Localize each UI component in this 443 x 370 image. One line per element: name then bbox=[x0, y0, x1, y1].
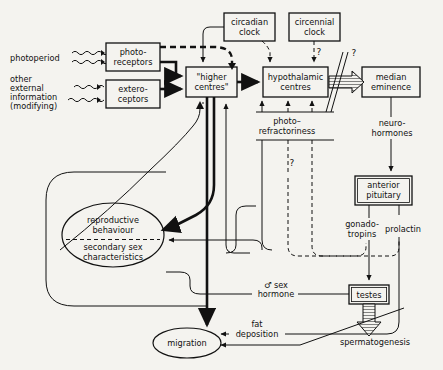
svg-text:eminence: eminence bbox=[371, 82, 411, 92]
svg-text:ceptors: ceptors bbox=[118, 94, 149, 104]
svg-text:tropins: tropins bbox=[348, 229, 376, 239]
edge-dashed-feedback-gonado bbox=[298, 243, 366, 256]
node-median-eminence: median eminence bbox=[362, 67, 420, 97]
node-reproductive-behaviour: reproductive behaviour secondary sex cha… bbox=[62, 203, 164, 267]
svg-text:photo-: photo- bbox=[120, 47, 147, 57]
node-testes: testes bbox=[349, 285, 389, 304]
svg-text:reproductive: reproductive bbox=[87, 215, 139, 225]
question-mark-refractoriness: ? bbox=[290, 158, 295, 168]
label-sex-hormone: ♂ sex hormone bbox=[252, 280, 298, 300]
edge-lower-to-higher-join bbox=[226, 245, 250, 253]
svg-text:neuro-: neuro- bbox=[379, 118, 406, 128]
question-mark-median: ? bbox=[352, 48, 357, 58]
question-mark-circennial: ? bbox=[317, 47, 322, 57]
svg-text:refractoriness: refractoriness bbox=[259, 126, 316, 136]
edge-circadian-to-hypothalamic bbox=[262, 41, 270, 62]
svg-text:receptors: receptors bbox=[114, 57, 153, 67]
edge-refractoriness-down-dash-a bbox=[288, 178, 298, 256]
svg-text:hypothalamic: hypothalamic bbox=[268, 72, 324, 82]
label-neurohormones: neuro- hormones bbox=[368, 117, 416, 139]
label-photoperiod: photoperiod bbox=[10, 53, 60, 63]
svg-text:"higher: "higher bbox=[196, 72, 227, 82]
loop-right-small bbox=[226, 206, 256, 253]
svg-text:deposition: deposition bbox=[236, 329, 279, 339]
label-prolactin: prolactin bbox=[385, 224, 421, 234]
svg-text:fat: fat bbox=[251, 319, 263, 329]
edge-refractoriness-down-solid bbox=[262, 140, 272, 250]
svg-text:hormones: hormones bbox=[372, 128, 413, 138]
node-migration: migration bbox=[153, 328, 221, 358]
svg-text:clock: clock bbox=[304, 27, 325, 37]
svg-text:circennial: circennial bbox=[295, 17, 334, 27]
svg-text:characteristics: characteristics bbox=[83, 252, 143, 262]
svg-text:migration: migration bbox=[167, 338, 207, 348]
photoperiod-input bbox=[72, 50, 108, 65]
edge-hormone-to-reproductive-elbow bbox=[253, 240, 262, 250]
edge-sexhormone-curve bbox=[166, 272, 200, 294]
svg-text:photo–: photo– bbox=[273, 116, 301, 126]
node-hypothalamic-centres: hypothalamic centres bbox=[263, 67, 328, 97]
edge-photoreceptors-to-higher bbox=[160, 62, 181, 76]
svg-text:(modifying): (modifying) bbox=[10, 101, 57, 111]
node-anterior-pituitary: anterior pituitary bbox=[355, 176, 412, 205]
svg-text:median: median bbox=[376, 72, 407, 82]
flow-diagram: photoperiod other external information (… bbox=[0, 0, 443, 370]
edge-dashed-feedback-prolactin bbox=[322, 240, 399, 256]
node-higher-centres: "higher centres" bbox=[186, 67, 237, 97]
node-circennial-clock: circennial clock bbox=[289, 13, 340, 41]
svg-text:pituitary: pituitary bbox=[366, 190, 401, 200]
svg-text:circadian: circadian bbox=[231, 17, 268, 27]
svg-text:clock: clock bbox=[239, 27, 260, 37]
svg-text:gonado-: gonado- bbox=[345, 219, 379, 229]
svg-text:hormone: hormone bbox=[258, 289, 295, 299]
edge-refractoriness-down-dash-b bbox=[312, 140, 322, 256]
label-photo-refractoriness: photo– refractoriness bbox=[256, 112, 334, 140]
node-circadian-clock: circadian clock bbox=[224, 13, 275, 41]
edge-circadian-to-higher-left bbox=[203, 27, 224, 62]
svg-text:anterior: anterior bbox=[367, 180, 400, 190]
external-info-input bbox=[68, 84, 104, 103]
node-exteroceptors: extero- ceptors bbox=[106, 80, 160, 108]
svg-text:centres: centres bbox=[280, 82, 310, 92]
label-fat-deposition: fat deposition bbox=[229, 318, 285, 340]
node-photoreceptors: photo- receptors bbox=[106, 43, 160, 71]
label-spermatogenesis: spermatogenesis bbox=[340, 337, 410, 347]
svg-text:extero-: extero- bbox=[118, 84, 147, 94]
svg-text:testes: testes bbox=[356, 290, 381, 300]
label-other-external-information: other external information (modifying) bbox=[10, 74, 57, 111]
svg-text:centres": centres" bbox=[194, 82, 228, 92]
svg-text:secondary sex: secondary sex bbox=[83, 242, 142, 252]
label-gonadotropins: gonado- tropins bbox=[340, 218, 384, 240]
svg-text:behaviour: behaviour bbox=[92, 225, 134, 235]
